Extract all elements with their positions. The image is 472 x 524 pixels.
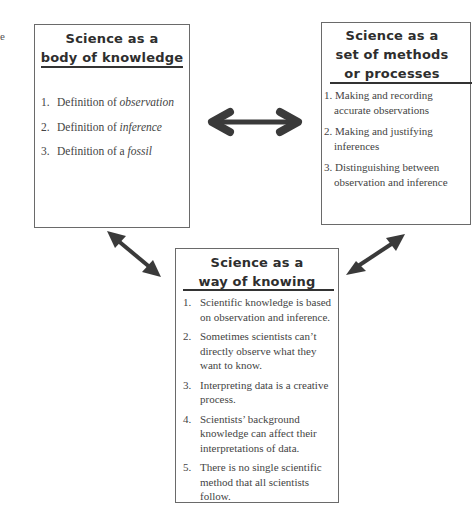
double-arrow-icon [346,234,405,275]
double-arrow-icon [212,112,298,132]
double-arrow-icon [107,231,161,277]
